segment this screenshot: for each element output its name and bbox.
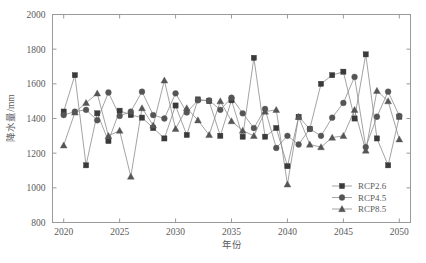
data-point-circle bbox=[229, 95, 235, 101]
data-point-square bbox=[352, 116, 357, 121]
chart-background bbox=[0, 0, 426, 263]
legend-label-rcp8-5: RCP8.5 bbox=[358, 204, 387, 214]
data-point-square bbox=[374, 136, 379, 141]
data-point-square bbox=[262, 134, 267, 139]
data-point-circle bbox=[117, 113, 123, 119]
data-point-circle bbox=[217, 107, 223, 113]
data-point-circle bbox=[61, 112, 67, 118]
data-point-circle bbox=[150, 112, 156, 118]
data-point-square bbox=[218, 133, 223, 138]
data-point-square bbox=[72, 73, 77, 78]
data-point-circle bbox=[318, 133, 324, 139]
data-point-circle bbox=[128, 109, 134, 115]
chart-svg: 800100012001400160018002000 202020252030… bbox=[0, 0, 426, 263]
data-point-square bbox=[318, 81, 323, 86]
legend-label-rcp2-6: RCP2.6 bbox=[358, 181, 387, 191]
data-point-circle bbox=[352, 74, 358, 80]
data-point-circle bbox=[139, 89, 145, 95]
data-point-circle bbox=[307, 126, 313, 132]
data-point-circle bbox=[206, 97, 212, 103]
data-point-circle bbox=[94, 117, 100, 123]
data-point-circle bbox=[396, 113, 402, 119]
data-point-circle bbox=[339, 195, 345, 201]
data-point-circle bbox=[296, 142, 302, 148]
data-point-circle bbox=[340, 100, 346, 106]
data-point-square bbox=[95, 111, 100, 116]
y-tick-label: 1000 bbox=[27, 183, 46, 193]
data-point-square bbox=[117, 108, 122, 113]
data-point-square bbox=[386, 163, 391, 168]
data-point-circle bbox=[240, 110, 246, 116]
data-point-square bbox=[339, 183, 344, 188]
data-point-circle bbox=[161, 116, 167, 122]
data-point-circle bbox=[374, 114, 380, 120]
x-tick-label: 2025 bbox=[110, 227, 129, 237]
data-point-square bbox=[251, 55, 256, 60]
data-point-square bbox=[240, 134, 245, 139]
data-point-circle bbox=[106, 90, 112, 96]
data-point-circle bbox=[195, 97, 201, 103]
data-point-square bbox=[162, 136, 167, 141]
x-tick-label: 2045 bbox=[334, 227, 353, 237]
y-axis-title: 降水量/mm bbox=[5, 94, 16, 142]
data-point-square bbox=[274, 125, 279, 130]
x-tick-label: 2030 bbox=[166, 227, 185, 237]
data-point-square bbox=[139, 115, 144, 120]
data-point-circle bbox=[173, 90, 179, 96]
x-axis-title: 年份 bbox=[222, 239, 242, 250]
data-point-square bbox=[184, 132, 189, 137]
precipitation-scenario-chart: 800100012001400160018002000 202020252030… bbox=[0, 0, 426, 263]
data-point-circle bbox=[329, 115, 335, 121]
y-tick-label: 1600 bbox=[27, 79, 46, 89]
data-point-circle bbox=[385, 89, 391, 95]
data-point-square bbox=[173, 103, 178, 108]
chart-legend: RCP2.6RCP4.5RCP8.5 bbox=[332, 181, 387, 214]
x-tick-label: 2020 bbox=[54, 227, 73, 237]
data-point-square bbox=[285, 164, 290, 169]
data-point-circle bbox=[83, 107, 89, 113]
data-point-circle bbox=[285, 133, 291, 139]
y-tick-label: 1800 bbox=[27, 45, 46, 55]
y-tick-label: 2000 bbox=[27, 10, 46, 20]
y-tick-label: 1200 bbox=[27, 149, 46, 159]
y-tick-label: 1400 bbox=[27, 114, 46, 124]
legend-label-rcp4-5: RCP4.5 bbox=[358, 193, 387, 203]
data-point-square bbox=[363, 52, 368, 57]
data-point-square bbox=[106, 138, 111, 143]
data-point-circle bbox=[251, 125, 257, 131]
data-point-square bbox=[330, 73, 335, 78]
data-point-circle bbox=[273, 145, 279, 151]
x-tick-label: 2035 bbox=[222, 227, 241, 237]
data-point-square bbox=[341, 69, 346, 74]
x-tick-label: 2050 bbox=[390, 227, 409, 237]
y-tick-label: 800 bbox=[31, 218, 46, 228]
data-point-square bbox=[83, 163, 88, 168]
x-tick-label: 2040 bbox=[278, 227, 297, 237]
